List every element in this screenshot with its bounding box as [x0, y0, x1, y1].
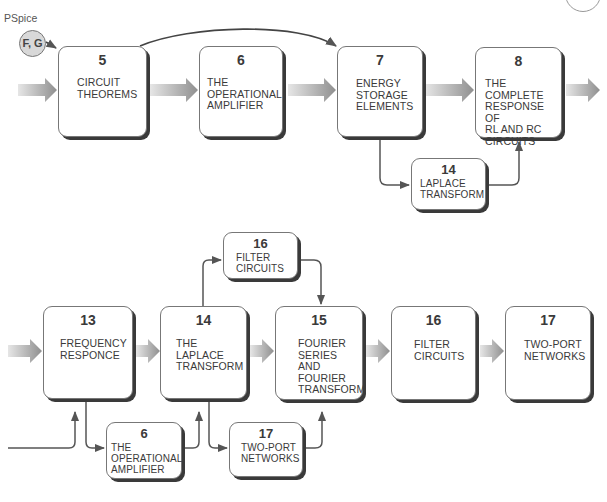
- chapter-number: 16: [392, 312, 475, 328]
- chapter-title: CIRCUIT THEOREMS: [77, 77, 137, 100]
- chapter-box-6: 6 THE OPERATIONAL AMPLIFIER: [199, 46, 283, 137]
- chapter-number: 14: [412, 162, 485, 177]
- chapter-title: FOURIER SERIES AND FOURIER TRANSFORM: [298, 338, 365, 396]
- chapter-number: 17: [230, 426, 302, 441]
- chapter-box-5: 5 CIRCUIT THEOREMS: [58, 46, 147, 137]
- pspice-badge: F, G: [19, 30, 46, 57]
- chapter-box-14: 14 THE LAPLACE TRANSFORM: [160, 306, 247, 399]
- branch-line-14-to-16: [203, 260, 221, 306]
- chapter-box-17: 17 TWO-PORT NETWORKS: [505, 306, 591, 400]
- fat-arrow-icon: [150, 78, 198, 102]
- branch-box-17-twoport: 17 TWO-PORT NETWORKS: [229, 422, 303, 477]
- chapter-box-15: 15 FOURIER SERIES AND FOURIER TRANSFORM: [275, 306, 363, 400]
- chapter-title: THE OPERATIONAL AMPLIFIER: [111, 442, 183, 475]
- branch-line-7-to-14: [380, 140, 409, 185]
- chapter-title: FILTER CIRCUITS: [236, 252, 284, 274]
- fat-arrow-icon: [366, 339, 390, 363]
- chapter-number: 14: [161, 312, 246, 328]
- branch-line-16-to-15: [300, 260, 321, 304]
- chapter-box-16: 16 FILTER CIRCUITS: [391, 306, 476, 400]
- chapter-title: THE LAPLACE TRANSFORM: [176, 338, 243, 373]
- chapter-title: TWO-PORT NETWORKS: [241, 442, 300, 464]
- branch-line-14-to-8: [488, 142, 519, 185]
- branch-line-6-to-14: [184, 412, 199, 448]
- chapter-title: FILTER CIRCUITS: [414, 339, 464, 362]
- chapter-title: THE COMPLETE RESPONSE OF RL AND RC CIRCU…: [485, 78, 561, 147]
- fat-arrow-icon: [8, 339, 42, 363]
- chapter-box-8: 8 THE COMPLETE RESPONSE OF RL AND RC CIR…: [475, 47, 562, 138]
- branch-line-13-to-6: [86, 400, 104, 448]
- chapter-box-13: 13 FREQUENCY RESPONCE: [43, 306, 133, 399]
- input-line-to-13: [8, 412, 75, 448]
- branch-box-6-opamp: 6 THE OPERATIONAL AMPLIFIER: [106, 422, 182, 479]
- chapter-box-7: 7 ENERGY STORAGE ELEMENTS: [337, 46, 423, 137]
- branch-line-17-to-15: [305, 412, 322, 448]
- branch-box-14-laplace: 14 LAPLACE TRANSFORM: [411, 158, 486, 210]
- chapter-number: 6: [200, 52, 282, 68]
- branch-line-14-to-17: [209, 400, 227, 448]
- chapter-title: LAPLACE TRANSFORM: [420, 178, 484, 200]
- chapter-number: 16: [224, 236, 297, 251]
- fat-arrow-icon: [480, 339, 504, 363]
- fat-arrow-icon: [250, 339, 274, 363]
- branch-box-16-filter: 16 FILTER CIRCUITS: [223, 232, 298, 279]
- chapter-number: 5: [59, 52, 146, 68]
- chapter-title: FREQUENCY RESPONCE: [60, 338, 127, 361]
- fat-arrow-icon: [566, 78, 600, 102]
- chapter-number: 13: [44, 312, 132, 328]
- pspice-label: PSpice: [4, 12, 37, 24]
- chapter-title: ENERGY STORAGE ELEMENTS: [356, 78, 413, 113]
- chapter-number: 8: [476, 53, 561, 69]
- fat-arrow-icon: [136, 339, 160, 363]
- fat-arrow-icon: [18, 78, 57, 102]
- pspice-arrow: [46, 42, 56, 48]
- chapter-number: 6: [107, 426, 181, 441]
- chapter-number: 7: [338, 52, 422, 68]
- fat-arrow-icon: [288, 78, 336, 102]
- fat-arrow-icon: [425, 78, 474, 102]
- chapter-title: THE OPERATIONAL AMPLIFIER: [207, 77, 282, 112]
- bypass-arrow-5-to-7: [140, 29, 336, 46]
- chapter-title: TWO-PORT NETWORKS: [524, 339, 585, 362]
- chapter-number: 15: [276, 312, 362, 328]
- chapter-number: 17: [506, 312, 590, 328]
